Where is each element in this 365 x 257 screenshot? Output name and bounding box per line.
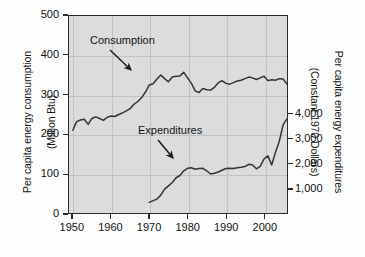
- tick-mark-bottom: [264, 214, 265, 219]
- tick-mark-left: [63, 174, 68, 175]
- tick-mark-left: [63, 94, 68, 95]
- left-axis-title-line2: (Million Btu): [45, 95, 57, 149]
- chart-figure: Per capita energy consumption (Million B…: [0, 0, 365, 257]
- tick-mark-right: [288, 113, 293, 114]
- tick-label-left: 200: [19, 127, 59, 139]
- tick-label-left: 500: [19, 8, 59, 20]
- tick-mark-right: [288, 138, 293, 139]
- line-consumption: [73, 72, 287, 130]
- tick-label-bottom: 1990: [206, 221, 246, 233]
- tick-label-left: 300: [19, 88, 59, 100]
- tick-mark-bottom: [110, 214, 111, 219]
- tick-label-right: 2,000: [295, 157, 340, 169]
- tick-label-left: 400: [19, 48, 59, 60]
- tick-label-bottom: 1980: [168, 221, 208, 233]
- tick-mark-bottom: [226, 214, 227, 219]
- tick-label-bottom: 1960: [90, 221, 130, 233]
- annotation-consumption: Consumption: [90, 34, 155, 46]
- tick-label-bottom: 1950: [52, 221, 92, 233]
- tick-label-bottom: 2000: [245, 221, 285, 233]
- tick-mark-left: [63, 213, 68, 214]
- tick-mark-bottom: [187, 214, 188, 219]
- tick-mark-left: [63, 54, 68, 55]
- tick-mark-left: [63, 134, 68, 135]
- tick-label-bottom: 1970: [129, 221, 169, 233]
- tick-mark-right: [288, 163, 293, 164]
- tick-mark-left: [63, 14, 68, 15]
- tick-mark-bottom: [148, 214, 149, 219]
- tick-label-right: 1,000: [295, 182, 340, 194]
- tick-label-right: 4,000: [295, 107, 340, 119]
- right-axis-title-line1: Per capita energy expenditures: [333, 51, 345, 193]
- tick-label-right: 3,000: [295, 132, 340, 144]
- annotation-expenditures: Expenditures: [138, 124, 202, 136]
- tick-label-left: 100: [19, 167, 59, 179]
- tick-mark-right: [288, 188, 293, 189]
- tick-mark-bottom: [71, 214, 72, 219]
- tick-label-left: 0: [19, 207, 59, 219]
